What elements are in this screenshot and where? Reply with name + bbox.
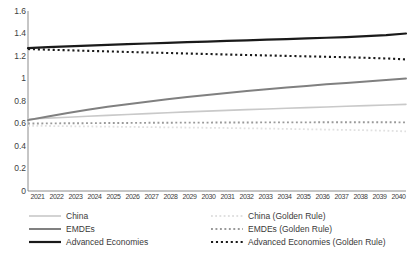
- legend-column-right: China (Golden Rule)EMDEs (Golden Rule)Ad…: [206, 209, 412, 261]
- legend-line-swatch: [210, 224, 244, 234]
- chart-legend: ChinaEMDEsAdvanced Economies China (Gold…: [0, 209, 412, 261]
- x-tick-label: 2030: [199, 192, 218, 204]
- legend-item[interactable]: Advanced Economies: [28, 235, 206, 248]
- legend-item-label: China: [66, 211, 88, 221]
- legend-item[interactable]: China (Golden Rule): [210, 209, 412, 222]
- series-line: [28, 49, 406, 59]
- series-line: [28, 79, 406, 121]
- legend-line-swatch: [210, 211, 244, 221]
- x-tick-label: 2040: [389, 192, 408, 204]
- legend-line-swatch: [28, 237, 62, 247]
- legend-item-label: EMDEs (Golden Rule): [248, 224, 332, 234]
- x-tick-label: 2034: [275, 192, 294, 204]
- legend-item[interactable]: EMDEs: [28, 222, 206, 235]
- x-axis-tick-labels: 2021202220232024202520262027202820292030…: [28, 192, 408, 204]
- legend-item-label: China (Golden Rule): [248, 211, 325, 221]
- x-tick-label: 2036: [313, 192, 332, 204]
- plot-area: 00.20.40.60.811.21.41.6 2021202220232024…: [0, 0, 412, 200]
- legend-item-label: EMDEs: [66, 224, 95, 234]
- x-tick-label: 2028: [161, 192, 180, 204]
- x-tick-label: 2024: [85, 192, 104, 204]
- x-tick-label: 2032: [237, 192, 256, 204]
- legend-item-label: Advanced Economies (Golden Rule): [248, 237, 386, 247]
- x-tick-label: 2038: [351, 192, 370, 204]
- legend-line-swatch: [210, 237, 244, 247]
- series-line: [28, 34, 406, 49]
- x-tick-label: 2026: [123, 192, 142, 204]
- x-tick-label: 2039: [370, 192, 389, 204]
- series-line: [28, 122, 406, 123]
- x-tick-label: 2033: [256, 192, 275, 204]
- plot-canvas: [0, 0, 412, 200]
- x-tick-label: 2035: [294, 192, 313, 204]
- x-tick-label: 2023: [66, 192, 85, 204]
- legend-item-label: Advanced Economies: [66, 237, 148, 247]
- x-tick-label: 2029: [180, 192, 199, 204]
- line-chart: 00.20.40.60.811.21.41.6 2021202220232024…: [0, 0, 412, 264]
- x-tick-label: 2027: [142, 192, 161, 204]
- legend-item[interactable]: China: [28, 209, 206, 222]
- x-tick-label: 2022: [47, 192, 66, 204]
- series-line: [28, 126, 406, 132]
- legend-line-swatch: [28, 224, 62, 234]
- x-tick-label: 2025: [104, 192, 123, 204]
- x-tick-label: 2037: [332, 192, 351, 204]
- legend-line-swatch: [28, 211, 62, 221]
- x-tick-label: 2031: [218, 192, 237, 204]
- legend-item[interactable]: Advanced Economies (Golden Rule): [210, 235, 412, 248]
- legend-item[interactable]: EMDEs (Golden Rule): [210, 222, 412, 235]
- x-tick-label: 2021: [28, 192, 47, 204]
- series-line: [28, 104, 406, 119]
- legend-column-left: ChinaEMDEsAdvanced Economies: [0, 209, 206, 261]
